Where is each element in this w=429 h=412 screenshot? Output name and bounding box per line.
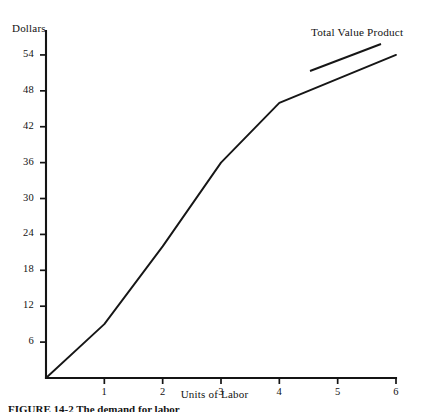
x-tick-label: 5 xyxy=(328,386,348,397)
total-value-product-line xyxy=(46,55,396,378)
y-tick-label: 42 xyxy=(8,120,34,131)
axes-group xyxy=(46,31,396,378)
series-group xyxy=(46,55,396,378)
y-tick-label: 18 xyxy=(8,263,34,274)
x-tick-label: 6 xyxy=(386,386,406,397)
annotation-leader-line xyxy=(310,44,381,71)
x-tick-label: 2 xyxy=(153,386,173,397)
y-axis-title: Dollars xyxy=(12,22,46,34)
y-tick-label: 24 xyxy=(8,227,34,238)
y-tick-label: 6 xyxy=(8,335,34,346)
chart-plot-area xyxy=(0,0,429,412)
series-annotation-label: Total Value Product xyxy=(311,26,403,38)
x-tick-label: 3 xyxy=(211,386,231,397)
y-tick-label: 36 xyxy=(8,156,34,167)
figure-container: Dollars Units of Labor Total Value Produ… xyxy=(0,0,429,412)
x-tick-label: 1 xyxy=(94,386,114,397)
figure-caption: FIGURE 14-2 The demand for labor xyxy=(8,403,429,412)
y-tick-label: 48 xyxy=(8,84,34,95)
x-tick-label: 4 xyxy=(269,386,289,397)
y-tick-label: 54 xyxy=(8,48,34,59)
y-tick-label: 30 xyxy=(8,192,34,203)
y-tick-label: 12 xyxy=(8,299,34,310)
